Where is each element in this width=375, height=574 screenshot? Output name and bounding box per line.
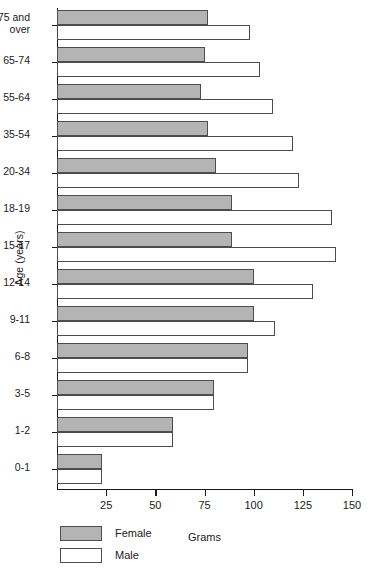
- legend-label-male: Male: [115, 548, 139, 563]
- y-axis-label: 35-54: [0, 129, 30, 141]
- x-axis-tick: [303, 489, 304, 496]
- bar-male: [57, 247, 336, 262]
- y-axis-label: 6-8: [0, 351, 30, 363]
- legend-label-female: Female: [115, 526, 152, 541]
- bar-female: [57, 158, 216, 173]
- bar-male: [57, 432, 173, 447]
- y-axis-label: 3-5: [0, 388, 30, 400]
- bar-male: [57, 62, 260, 77]
- y-axis-label: 1-2: [0, 425, 30, 437]
- bar-male: [57, 284, 313, 299]
- y-axis-tick: [52, 469, 57, 470]
- y-axis-tick: [52, 321, 57, 322]
- x-axis-tick-label: 75: [185, 499, 225, 511]
- x-axis-tick: [155, 489, 156, 496]
- bar-group: [57, 84, 352, 114]
- y-axis-label: 12-14: [0, 277, 30, 289]
- bar-female: [57, 380, 214, 395]
- bar-female: [57, 343, 248, 358]
- bar-female: [57, 195, 232, 210]
- bar-male: [57, 321, 275, 336]
- bar-male: [57, 99, 273, 114]
- x-axis-tick-label: 50: [135, 499, 175, 511]
- bar-group: [57, 454, 352, 484]
- legend-swatch-male: [60, 548, 102, 563]
- bar-group: [57, 232, 352, 262]
- bar-female: [57, 84, 201, 99]
- bar-male: [57, 358, 248, 373]
- bar-male: [57, 173, 299, 188]
- y-axis-tick: [52, 99, 57, 100]
- bar-female: [57, 454, 102, 469]
- y-axis-tick: [52, 284, 57, 285]
- bar-female: [57, 47, 205, 62]
- bar-male: [57, 25, 250, 40]
- bar-group: [57, 343, 352, 373]
- x-axis-tick: [352, 489, 353, 496]
- x-axis-tick-label: 125: [283, 499, 323, 511]
- bar-male: [57, 136, 293, 151]
- x-axis-tick: [205, 489, 206, 496]
- bar-male: [57, 395, 214, 410]
- bar-female: [57, 306, 254, 321]
- y-axis-label: 20-34: [0, 166, 30, 178]
- bar-male: [57, 210, 332, 225]
- x-axis-tick: [106, 489, 107, 496]
- bar-female: [57, 121, 208, 136]
- y-axis-tick: [52, 136, 57, 137]
- bar-female: [57, 269, 254, 284]
- x-axis-tick-label: 150: [332, 499, 372, 511]
- y-axis-tick: [52, 62, 57, 63]
- x-axis-tick-label: 100: [234, 499, 274, 511]
- bar-female: [57, 10, 208, 25]
- y-axis-label: 75 and over: [0, 12, 30, 35]
- y-axis-tick: [52, 432, 57, 433]
- y-axis-label: 65-74: [0, 55, 30, 67]
- y-axis-tick: [52, 247, 57, 248]
- bar-group: [57, 417, 352, 447]
- y-axis-tick: [52, 358, 57, 359]
- bar-group: [57, 195, 352, 225]
- bar-group: [57, 380, 352, 410]
- bar-chart: Age (years) 75 and over65-7455-6435-5420…: [0, 0, 375, 574]
- bar-group: [57, 10, 352, 40]
- x-axis-tick: [254, 489, 255, 496]
- y-axis-tick: [52, 173, 57, 174]
- y-axis-tick: [52, 25, 57, 26]
- plot-area: 75 and over65-7455-6435-5420-3418-1915-1…: [57, 8, 352, 489]
- bar-group: [57, 47, 352, 77]
- bar-male: [57, 469, 102, 484]
- bar-group: [57, 269, 352, 299]
- y-axis-label: 15-17: [0, 240, 30, 252]
- bar-female: [57, 232, 232, 247]
- bar-female: [57, 417, 173, 432]
- y-axis-label: 18-19: [0, 203, 30, 215]
- y-axis-label: 55-64: [0, 92, 30, 104]
- y-axis-label: 0-1: [0, 462, 30, 474]
- legend-swatch-female: [60, 526, 102, 541]
- bar-group: [57, 306, 352, 336]
- y-axis-label: 9-11: [0, 314, 30, 326]
- bar-group: [57, 158, 352, 188]
- y-axis-title: Age (years): [13, 213, 25, 303]
- bar-group: [57, 121, 352, 151]
- y-axis-tick: [52, 395, 57, 396]
- x-axis-tick-label: 25: [86, 499, 126, 511]
- y-axis-tick: [52, 210, 57, 211]
